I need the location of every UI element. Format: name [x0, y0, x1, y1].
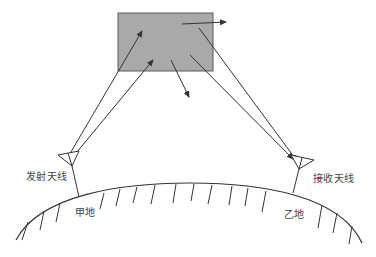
scatter-diagram — [0, 0, 376, 257]
earth-surface-arc — [16, 183, 362, 243]
scatter-region-box — [118, 13, 213, 71]
transmit-ray-1 — [68, 31, 142, 157]
receive-antenna-icon — [291, 155, 314, 193]
receive-ray-2 — [190, 55, 293, 159]
transmit-antenna-label: 发射天线 — [26, 172, 67, 182]
receive-ray-1 — [199, 28, 297, 161]
receive-antenna-label: 接收天线 — [313, 174, 354, 184]
site-a-label: 甲地 — [75, 208, 96, 218]
site-b-label: 乙地 — [284, 210, 305, 220]
transmit-ray-2 — [72, 60, 153, 158]
